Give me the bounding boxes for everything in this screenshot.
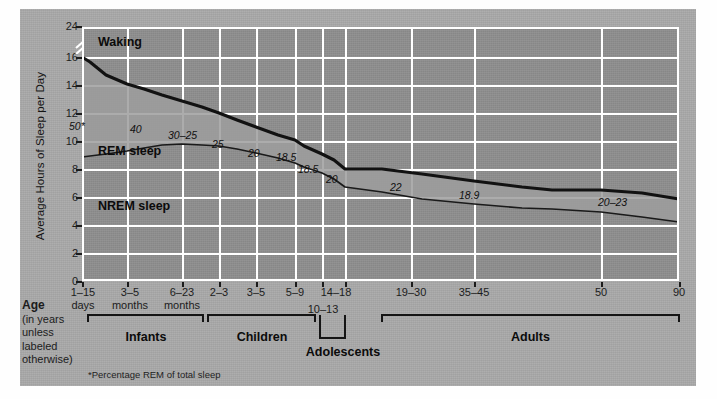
pct-label-10: 20–23 — [598, 196, 627, 208]
group-label-infants: Infants — [88, 330, 204, 344]
x-tick-5-line1: 5–9 — [276, 286, 314, 299]
age-caption-line1: (in years — [22, 313, 64, 325]
x-tick-4-line1: 3–5 — [237, 286, 275, 299]
y-tick-8: 8 — [38, 164, 78, 175]
x-tick-6-line1: 14–18 — [313, 286, 359, 299]
plot-frame — [82, 27, 679, 281]
pct-label-5: 18.5 — [276, 151, 296, 163]
pct-label-3: 25 — [212, 138, 224, 150]
group-label-adults: Adults — [382, 330, 679, 344]
group-label-children: Children — [208, 330, 316, 344]
y-tick-14: 14 — [38, 80, 78, 91]
age-caption-title: Age — [22, 298, 45, 312]
y-tick-10: 10 — [38, 136, 78, 147]
y-tick-12: 12 — [38, 108, 78, 119]
y-tick-16: 16 — [38, 52, 78, 63]
y-tick-2: 2 — [38, 248, 78, 259]
x-tick-0-line1: 1–15 — [62, 286, 104, 299]
pct-label-0: 50* — [69, 120, 85, 132]
x-tick-1-line1: 3–5 — [108, 286, 152, 299]
pct-label-4: 20 — [248, 147, 260, 159]
pct-label-8: 22 — [390, 181, 402, 193]
sleep-chart-figure: Average Hours of Sleep per Day 24 16 14 … — [0, 0, 717, 399]
group-label-adolescents: Adolescents — [288, 345, 398, 359]
age-caption-line4: otherwise) — [22, 353, 73, 365]
pct-label-6: 18.5 — [298, 163, 318, 175]
age-caption-line2: unless — [22, 326, 54, 338]
x-tick-2-line2: months — [157, 299, 207, 312]
pct-label-7: 20 — [326, 173, 338, 185]
x-tick-7-line1: 19–30 — [388, 286, 434, 299]
x-tick-10-line1: 90 — [663, 286, 695, 299]
x-tick-3-line1: 2–3 — [200, 286, 238, 299]
pct-label-9: 18.9 — [459, 189, 479, 201]
pct-label-2: 30–25 — [168, 129, 197, 141]
plot-area: Waking REM sleep NREM sleep — [82, 27, 679, 281]
x-tick-8-line1: 35–45 — [451, 286, 497, 299]
age-caption-line3: labeled — [22, 340, 57, 352]
y-tick-6: 6 — [38, 192, 78, 203]
footnote: *Percentage REM of total sleep — [88, 369, 221, 380]
age-caption: Age (in years unless labeled otherwise) — [22, 299, 84, 367]
y-tick-4: 4 — [38, 220, 78, 231]
x-tick-1-line2: months — [105, 299, 155, 312]
pct-label-1: 40 — [130, 123, 142, 135]
x-tick-2-line1: 6–23 — [160, 286, 204, 299]
x-tick-6-below: 10–13 — [300, 303, 346, 316]
x-tick-9-line1: 50 — [585, 286, 617, 299]
y-tick-24: 24 — [38, 21, 78, 32]
